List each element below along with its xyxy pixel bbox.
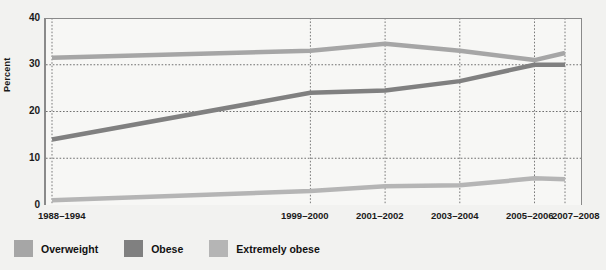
y-tick-0: 0 (34, 200, 40, 210)
x-tick-2003-2004: 2003–2004 (431, 210, 479, 221)
y-tick-20: 20 (29, 106, 40, 116)
chart-legend: Overweight Obese Extremely obese (14, 240, 346, 257)
y-tick-30: 30 (29, 59, 40, 69)
x-tick-2001-2002: 2001–2002 (356, 210, 404, 221)
y-axis-tick-labels: 40 30 20 10 0 (14, 0, 40, 220)
legend-label-overweight: Overweight (41, 243, 98, 255)
legend-swatch-obese (124, 240, 143, 257)
legend-swatch-extremely-obese (209, 240, 228, 257)
y-tick-10: 10 (29, 153, 40, 163)
legend-label-extremely-obese: Extremely obese (236, 243, 319, 255)
y-axis-title: Percent (2, 58, 12, 92)
legend-swatch-overweight (14, 240, 33, 257)
y-axis-line (44, 18, 46, 205)
x-tick-2005-2006: 2005–2006 (506, 210, 554, 221)
chart-canvas (46, 18, 582, 205)
legend-item-extremely-obese[interactable]: Extremely obese (209, 240, 319, 257)
legend-label-obese: Obese (151, 243, 183, 255)
line-chart: Percent 40 30 20 10 0 (0, 0, 606, 270)
y-tick-40: 40 (29, 13, 40, 23)
x-tick-1999-2000: 1999–2000 (281, 210, 329, 221)
x-tick-1988-1994: 1988–1994 (38, 210, 86, 221)
legend-item-overweight[interactable]: Overweight (14, 240, 98, 257)
legend-item-obese[interactable]: Obese (124, 240, 183, 257)
plot-area (46, 18, 582, 205)
x-tick-2007-2008: 2007–2008 (552, 210, 600, 221)
